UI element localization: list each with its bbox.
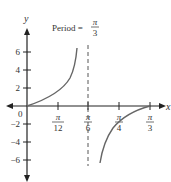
y-axis-bottom-arrow (24, 175, 30, 182)
x-axis-right-arrow (159, 103, 166, 109)
svg-text:2: 2 (16, 83, 21, 93)
svg-text:Period =: Period = (52, 23, 83, 33)
svg-text:π: π (148, 112, 153, 122)
curve-branch-1 (27, 48, 77, 106)
svg-text:4: 4 (117, 123, 122, 133)
tangent-graph: y x 6 4 2 −2 −4 −6 0 π 12 π 6 π 4 π 3 (0, 0, 171, 182)
svg-text:4: 4 (16, 65, 21, 75)
origin-label: 0 (18, 109, 23, 119)
svg-text:3: 3 (93, 28, 98, 38)
svg-text:12: 12 (54, 123, 63, 133)
x-axis-label: x (165, 101, 171, 112)
y-axis-label: y (23, 13, 29, 24)
x-axis-left-arrow (6, 103, 13, 109)
curve-branch-2 (100, 106, 150, 163)
svg-text:−6: −6 (10, 155, 20, 165)
period-annotation: Period = π 3 (52, 17, 99, 38)
svg-text:π: π (93, 17, 98, 27)
svg-text:3: 3 (148, 123, 153, 133)
svg-text:6: 6 (16, 47, 21, 57)
svg-text:π: π (56, 112, 61, 122)
svg-text:−4: −4 (10, 137, 20, 147)
y-axis-top-arrow (24, 28, 30, 35)
x-tick-labels: π 12 π 6 π 4 π 3 (52, 112, 154, 133)
svg-text:−2: −2 (10, 119, 20, 129)
